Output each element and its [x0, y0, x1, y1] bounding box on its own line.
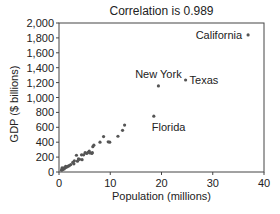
point-label: Florida — [152, 121, 187, 133]
x-tick-label: 40 — [258, 177, 270, 189]
x-tick-label: 20 — [155, 177, 167, 189]
data-point — [60, 166, 63, 169]
data-point — [184, 78, 187, 81]
data-point — [123, 123, 126, 126]
x-tick-label: 0 — [56, 177, 62, 189]
scatter-chart: Correlation is 0.989 GDP ($ billions) Po… — [0, 0, 280, 214]
data-point — [102, 135, 105, 138]
data-point — [121, 129, 124, 132]
y-tick-label: 200 — [36, 151, 54, 163]
y-tick-label: 1,200 — [26, 77, 54, 89]
data-point — [76, 160, 79, 163]
y-tick-label: 0 — [48, 166, 54, 178]
plot-area: 02004006008001,0001,2001,4001,6001,8002,… — [0, 0, 280, 214]
y-tick-label: 400 — [36, 136, 54, 148]
data-point — [152, 115, 155, 118]
data-point — [80, 153, 83, 156]
y-tick-label: 2,000 — [26, 17, 54, 29]
data-point — [107, 140, 110, 143]
x-tick-label: 30 — [207, 177, 219, 189]
y-tick-label: 1,600 — [26, 47, 54, 59]
point-label: California — [196, 29, 243, 41]
point-label: New York — [135, 68, 182, 80]
y-tick-label: 600 — [36, 121, 54, 133]
data-point — [116, 135, 119, 138]
point-label: Texas — [190, 74, 219, 86]
y-tick-label: 1,000 — [26, 92, 54, 104]
y-tick-label: 1,800 — [26, 32, 54, 44]
data-point — [98, 141, 101, 144]
data-point — [247, 33, 250, 36]
y-tick-label: 1,400 — [26, 62, 54, 74]
data-point — [91, 145, 94, 148]
y-tick-label: 800 — [36, 106, 54, 118]
x-tick-label: 10 — [104, 177, 116, 189]
data-point — [157, 84, 160, 87]
data-point — [75, 154, 78, 157]
